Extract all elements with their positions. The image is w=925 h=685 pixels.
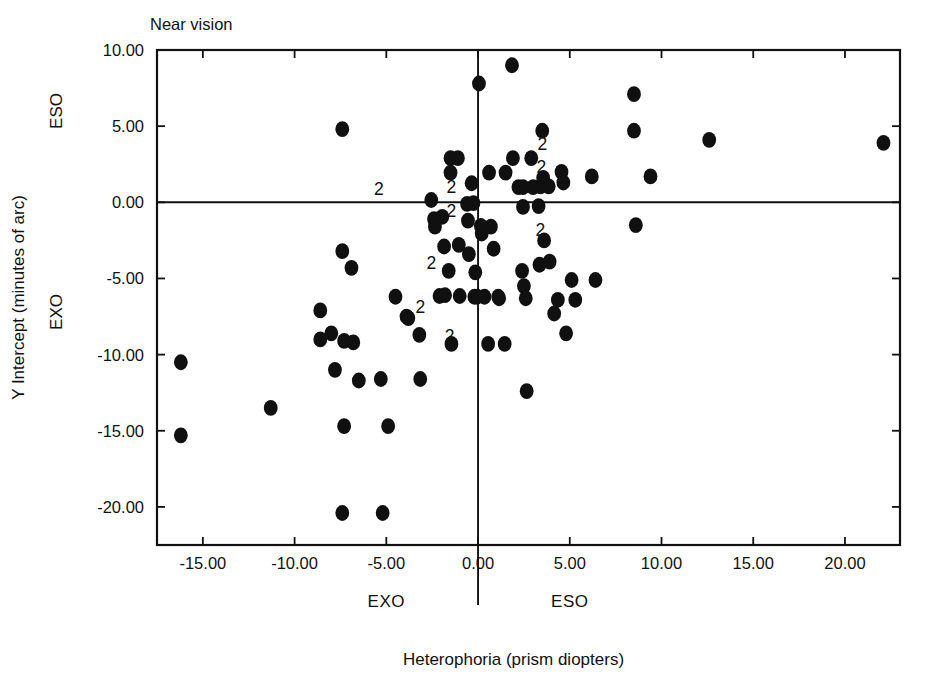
data-point [442, 263, 456, 279]
data-point [877, 135, 891, 151]
data-point [451, 150, 465, 166]
data-point [629, 217, 643, 233]
data-point [492, 290, 506, 306]
data-point [542, 178, 556, 194]
data-point [481, 336, 495, 352]
y-axis-tick-label: 5.00 [112, 117, 144, 135]
data-point [532, 198, 546, 214]
data-point [335, 121, 349, 137]
data-point [627, 86, 641, 102]
data-point [401, 310, 415, 326]
x-axis-tick-label: 20.00 [824, 554, 865, 572]
data-point [515, 263, 529, 279]
data-point [453, 288, 467, 304]
data-point [519, 290, 533, 306]
data-point [568, 292, 582, 308]
data-point [484, 219, 498, 235]
data-point [505, 57, 519, 73]
duplicate-count-label: 2 [536, 157, 546, 177]
data-point [702, 132, 716, 148]
duplicate-count-label: 2 [447, 177, 457, 197]
data-point [174, 427, 188, 443]
x-axis-tick-label: 15.00 [733, 554, 774, 572]
x-axis-title: Heterophoria (prism diopters) [403, 650, 624, 669]
data-point [585, 169, 599, 185]
data-point [559, 325, 573, 341]
scatter-plot-figure: -15.00-10.00-5.000.005.0010.0015.0020.00… [0, 0, 925, 685]
data-point [478, 289, 492, 305]
data-point [345, 260, 359, 276]
y-axis-title: Y Intercept (minutes of arc) [9, 195, 28, 400]
data-point [374, 371, 388, 387]
data-point [506, 150, 520, 166]
y-axis-tick-label: -15.00 [97, 422, 144, 440]
data-point [389, 289, 403, 305]
data-point [551, 292, 565, 308]
x-axis-tick-label: -5.00 [368, 554, 406, 572]
data-point [465, 175, 479, 191]
data-point [174, 354, 188, 370]
y-axis-tick-label: -5.00 [106, 269, 144, 287]
data-point [467, 195, 481, 211]
data-point [556, 175, 570, 191]
data-point [424, 192, 438, 208]
data-point [644, 169, 658, 185]
data-point [337, 418, 351, 434]
data-point [328, 362, 342, 378]
data-point [412, 327, 426, 343]
duplicate-count-label: 2 [447, 201, 457, 221]
duplicate-count-label: 2 [415, 297, 425, 317]
duplicate-count-label: 2 [536, 220, 546, 240]
data-point [487, 241, 501, 257]
data-point [516, 199, 530, 215]
data-point [346, 335, 360, 351]
y-axis-exo-label: EXO [47, 294, 66, 330]
data-point [499, 165, 513, 181]
x-axis-tick-label: -15.00 [179, 554, 226, 572]
x-axis-eso-label: ESO [551, 592, 588, 611]
data-point [381, 418, 395, 434]
panel-title: Near vision [150, 15, 233, 33]
x-axis-tick-label: -10.00 [271, 554, 318, 572]
data-point [438, 287, 452, 303]
data-point [313, 303, 327, 319]
duplicate-count-label: 2 [537, 134, 547, 154]
data-point [547, 306, 561, 322]
data-point [589, 272, 603, 288]
data-point [335, 505, 349, 521]
duplicate-count-label: 2 [374, 179, 384, 199]
data-point [335, 243, 349, 259]
duplicate-count-label: 2 [445, 326, 455, 346]
data-point [437, 239, 451, 255]
data-point [498, 336, 512, 352]
data-point [462, 246, 476, 262]
data-point [472, 76, 486, 92]
data-point [565, 272, 579, 288]
y-axis-tick-label: -10.00 [97, 346, 144, 364]
x-axis-exo-label: EXO [368, 592, 405, 611]
x-axis-tick-label: 5.00 [554, 554, 586, 572]
x-axis-tick-label: 10.00 [641, 554, 682, 572]
data-point [352, 373, 366, 389]
data-point [482, 165, 496, 181]
data-point [264, 400, 278, 416]
data-point [468, 264, 482, 280]
duplicate-count-label: 2 [426, 253, 436, 273]
y-axis-tick-label: -20.00 [97, 498, 144, 516]
data-point [413, 371, 427, 387]
data-point [543, 254, 557, 270]
data-point [376, 505, 390, 521]
y-axis-tick-label: 0.00 [112, 193, 144, 211]
data-point [324, 325, 338, 341]
y-axis-tick-label: 10.00 [103, 41, 144, 59]
data-point [461, 213, 475, 229]
y-axis-eso-label: ESO [47, 93, 66, 129]
data-point [520, 383, 534, 399]
scatter-plot-svg: -15.00-10.00-5.000.005.0010.0015.0020.00… [0, 0, 925, 685]
data-point [627, 123, 641, 139]
